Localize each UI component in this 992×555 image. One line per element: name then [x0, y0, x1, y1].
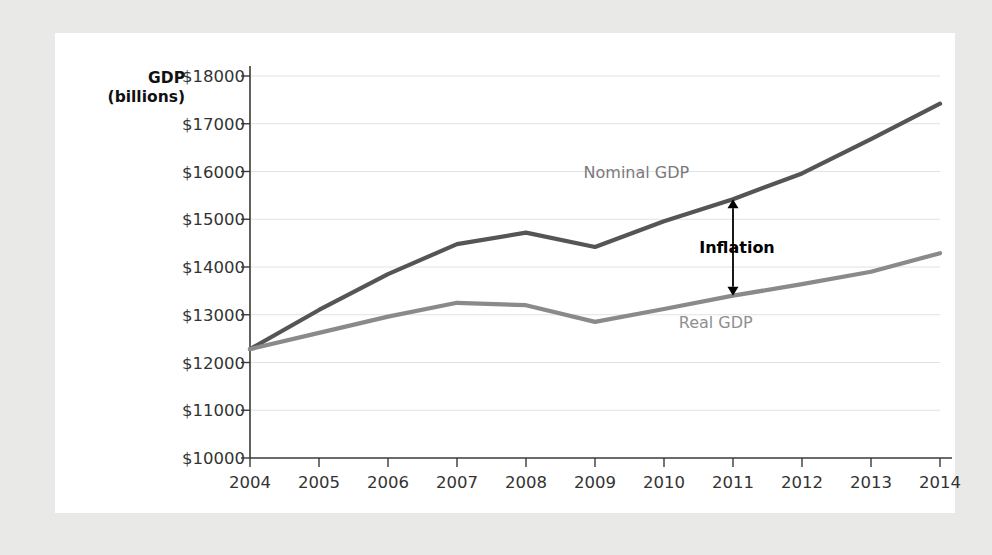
x-axis-tick-label: 2004	[229, 473, 271, 492]
x-axis-tick-label: 2009	[574, 473, 616, 492]
x-axis-tick-label: 2005	[298, 473, 340, 492]
x-axis-tick-label: 2012	[781, 473, 823, 492]
annotation-label-inflation: Inflation	[699, 238, 775, 257]
x-axis-tick-label: 2010	[643, 473, 685, 492]
x-axis-tick-label: 2007	[436, 473, 478, 492]
x-axis-tick-label: 2014	[919, 473, 961, 492]
x-axis-tick-label: 2006	[367, 473, 409, 492]
x-axis-tick-label: 2008	[505, 473, 547, 492]
x-axis-tick-label: 2013	[850, 473, 892, 492]
series-label-real-gdp: Real GDP	[679, 313, 753, 332]
x-axis-tick-labels: 2004200520062007200820092010201120122013…	[55, 33, 955, 513]
gdp-line-chart: GDP (billions) $10000$11000$12000$13000$…	[55, 33, 955, 513]
figure-card: GDP (billions) $10000$11000$12000$13000$…	[55, 33, 955, 513]
series-label-nominal-gdp: Nominal GDP	[584, 163, 690, 182]
x-axis-tick-label: 2011	[712, 473, 754, 492]
